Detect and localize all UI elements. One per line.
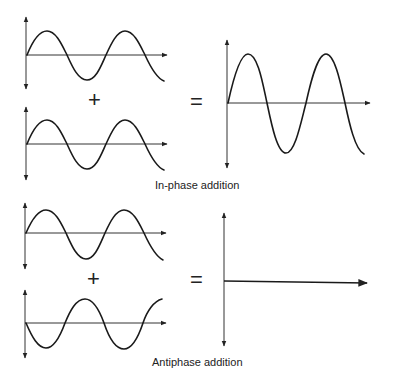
antiphase-plus-sign: + — [87, 268, 100, 290]
antiphase-input-wave-1 — [25, 203, 166, 269]
inphase-input-wave-2 — [26, 107, 167, 180]
antiphase-result-flat — [224, 213, 367, 346]
inphase-equals-sign: = — [190, 91, 203, 113]
inphase-label: In-phase addition — [155, 179, 239, 191]
antiphase-label: Antiphase addition — [152, 356, 243, 368]
inphase-result-wave — [227, 40, 370, 168]
antiphase-input-wave-2 — [25, 290, 166, 358]
antiphase-equals-sign: = — [190, 269, 203, 291]
inphase-input-wave-1 — [26, 17, 167, 89]
inphase-plus-sign: + — [88, 89, 101, 111]
